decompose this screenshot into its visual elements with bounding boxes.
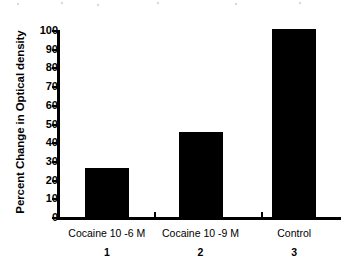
y-tick-mark (52, 142, 58, 144)
bar-chart-figure: Percent Change in Optical density 010203… (0, 0, 348, 268)
y-tick-row: 0 (0, 212, 58, 223)
plot-area: 0102030405060708090100 Cocaine 10 -6 M1C… (0, 0, 348, 268)
y-tick-mark (52, 217, 58, 219)
y-tick-row: 10 (0, 193, 58, 204)
bar (179, 132, 223, 218)
y-tick-row: 70 (0, 81, 58, 92)
y-tick-mark (52, 180, 58, 182)
bar (272, 29, 316, 218)
y-tick-mark (52, 67, 58, 69)
y-tick-mark (52, 124, 58, 126)
y-tick-row: 60 (0, 100, 58, 111)
y-tick-mark (52, 30, 58, 32)
x-axis-tick-2 (261, 212, 263, 218)
y-tick-mark (52, 86, 58, 88)
x-category-label: Control (224, 227, 348, 239)
y-tick-row: 40 (0, 137, 58, 148)
y-tick-mark (52, 105, 58, 107)
y-tick-mark (52, 198, 58, 200)
y-tick-mark (52, 161, 58, 163)
y-tick-row: 80 (0, 62, 58, 73)
x-axis-tick-1 (154, 212, 156, 218)
y-tick-row: 100 (0, 25, 58, 36)
y-tick-row: 20 (0, 175, 58, 186)
y-tick-mark (52, 49, 58, 51)
bar (85, 168, 129, 218)
y-tick-row: 30 (0, 156, 58, 167)
y-tick-row: 50 (0, 119, 58, 130)
y-tick-row: 90 (0, 44, 58, 55)
x-group-number: 3 (224, 246, 348, 258)
